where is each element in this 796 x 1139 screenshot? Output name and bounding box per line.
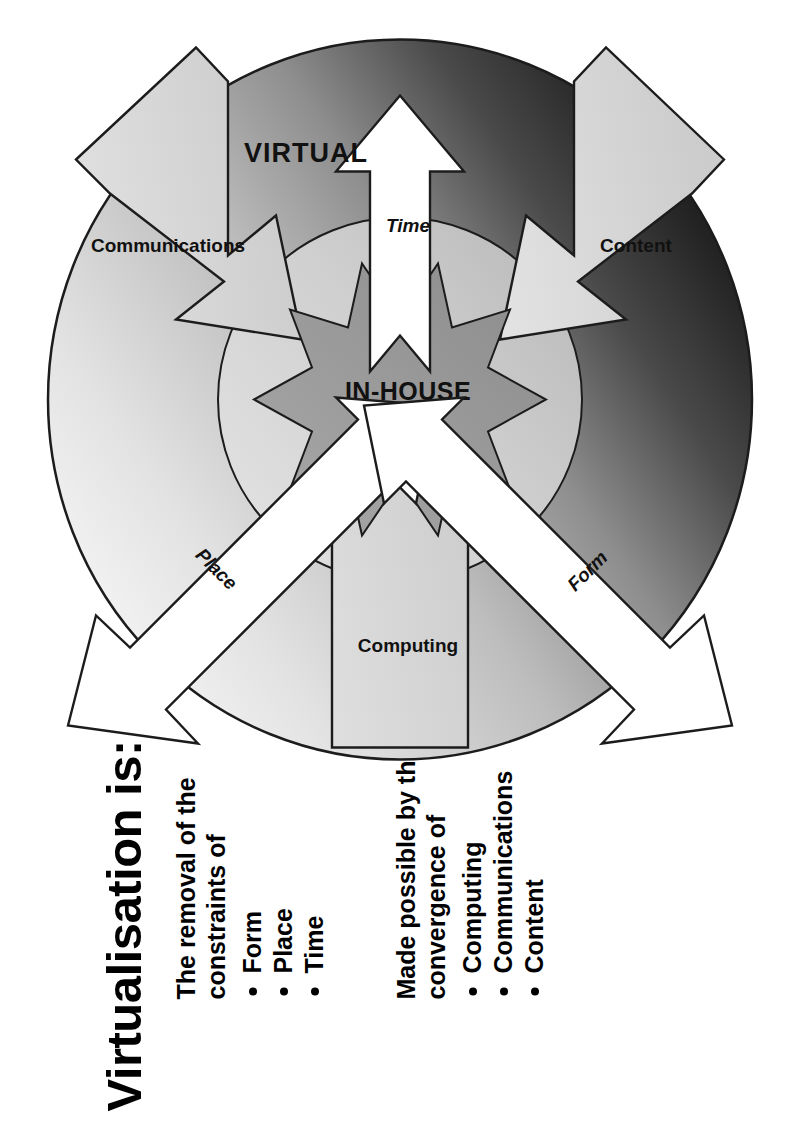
bullet-label: Form (238, 911, 266, 974)
bullet-dot-icon (469, 987, 477, 995)
arrow-label-time: Time (386, 214, 430, 235)
bullet-label: Content (520, 879, 548, 973)
bullet-label: Computing (458, 841, 486, 973)
bullet-label: Place (269, 908, 297, 973)
arrow-label-communications: Communications (91, 234, 245, 255)
page-title: Virtualisation is: (96, 740, 152, 1111)
bullet-label: Communications (489, 770, 517, 973)
bullet-dot-icon (311, 987, 319, 995)
slide-canvas: Virtualisation is: The removal of the co… (0, 0, 796, 1139)
arrow-label-content: Content (600, 234, 672, 255)
bullet-dot-icon (500, 987, 508, 995)
bullet-label: Time (300, 915, 328, 973)
slide-rotator: Virtualisation is: The removal of the co… (0, 0, 796, 1139)
outer-label-virtual: VIRTUAL (244, 137, 368, 167)
bullet-dot-icon (531, 987, 539, 995)
bullet-dot-icon (249, 987, 257, 995)
virtualisation-circle-diagram: Computing Communications Content IN-HOUS… (40, 26, 760, 771)
bullet-dot-icon (280, 987, 288, 995)
arrow-label-computing: Computing (358, 634, 458, 655)
